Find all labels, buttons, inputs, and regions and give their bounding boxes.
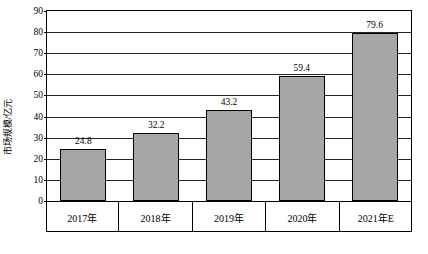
bar-chart: 市场规模/亿元 0102030405060708090 24.832.243.2… — [0, 0, 428, 254]
y-axis-tick-label: 0 — [38, 196, 43, 206]
bar-value-label: 24.8 — [75, 136, 92, 146]
x-axis-category-label: 2020年 — [266, 202, 339, 232]
y-axis-tick-label: 50 — [34, 90, 44, 100]
y-axis-tick-label: 60 — [34, 69, 44, 79]
x-axis-categories: 2017年2018年2019年2020年2021年E — [46, 202, 412, 232]
x-axis-category-label: 2019年 — [193, 202, 266, 232]
y-axis-tick-label: 40 — [34, 112, 44, 122]
y-axis-tick-label: 10 — [34, 175, 44, 185]
bar-item[interactable]: 24.8 — [47, 11, 120, 201]
y-axis-tick-label: 30 — [34, 133, 44, 143]
y-axis-title: 市场规模/亿元 — [0, 0, 15, 254]
bar[interactable] — [279, 76, 325, 201]
bar-item[interactable]: 59.4 — [265, 11, 338, 201]
bar-value-label: 43.2 — [221, 97, 238, 107]
y-axis-tick-label: 90 — [34, 6, 44, 16]
x-axis-category-label: 2021年E — [340, 202, 412, 232]
bar-series: 24.832.243.259.479.6 — [47, 11, 411, 201]
bar-item[interactable]: 32.2 — [120, 11, 193, 201]
bar[interactable] — [133, 133, 179, 201]
plot-area: 0102030405060708090 24.832.243.259.479.6 — [46, 10, 412, 202]
y-axis-tick-label: 80 — [34, 27, 44, 37]
bar-item[interactable]: 79.6 — [338, 11, 411, 201]
bar-value-label: 32.2 — [148, 120, 165, 130]
bar-item[interactable]: 43.2 — [193, 11, 266, 201]
bar-value-label: 59.4 — [293, 63, 310, 73]
bar[interactable] — [60, 149, 106, 201]
x-axis-category-label: 2018年 — [119, 202, 192, 232]
bar-value-label: 79.6 — [366, 20, 383, 30]
x-axis-category-label: 2017年 — [46, 202, 119, 232]
y-axis-tick-label: 70 — [34, 48, 44, 58]
bar[interactable] — [352, 33, 398, 201]
bar[interactable] — [206, 110, 252, 201]
y-axis-tick-label: 20 — [34, 154, 44, 164]
